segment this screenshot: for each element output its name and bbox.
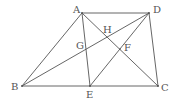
label-H: H — [103, 24, 112, 35]
label-F: F — [124, 42, 131, 53]
label-A: A — [72, 4, 81, 15]
label-D: D — [153, 4, 161, 15]
geometry-diagram: A D B C E G H F — [0, 0, 178, 105]
label-C: C — [161, 82, 169, 93]
point-C — [157, 85, 159, 87]
point-A — [81, 12, 83, 14]
vertex-dots — [21, 12, 159, 87]
point-B — [21, 85, 23, 87]
segment-AB — [22, 13, 82, 86]
label-G: G — [76, 40, 84, 51]
point-D — [148, 12, 150, 14]
point-E — [89, 85, 91, 87]
label-B: B — [11, 81, 18, 92]
point-F — [119, 48, 121, 50]
label-E: E — [86, 89, 93, 100]
segments — [22, 13, 158, 86]
segment-DC — [149, 13, 158, 86]
